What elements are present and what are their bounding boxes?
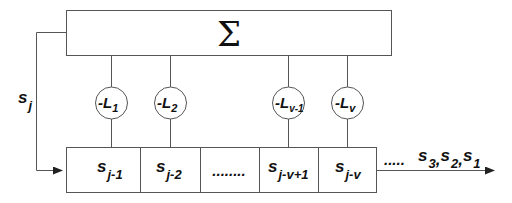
tap-lines <box>112 56 348 147</box>
coefficient-v-minus-1: -Lv-1 <box>273 87 305 119</box>
shift-register: sj-1 sj-2 ........ sj-v+1 sj-v <box>67 148 377 193</box>
feedback-label: sj <box>18 88 32 113</box>
summation-block: Σ <box>67 11 392 56</box>
output-symbols: s3,s2,s1 <box>418 146 481 171</box>
coefficient-2: -L2 <box>155 87 187 119</box>
coefficient-1: -L1 <box>96 87 128 119</box>
sigma-symbol: Σ <box>217 14 241 54</box>
lfsr-diagram: Σ sj -L1 -L2 -Lv-1 -Lv sj-1 sj-2 ...... <box>0 0 512 203</box>
output-ellipsis: ..... <box>384 151 405 168</box>
register-ellipsis: ........ <box>212 162 245 179</box>
coefficient-v: -Lv <box>332 87 364 119</box>
feedback-path: sj <box>18 33 66 171</box>
output-sequence: ..... s3,s2,s1 <box>377 146 494 171</box>
feedback-arrow <box>37 33 67 171</box>
